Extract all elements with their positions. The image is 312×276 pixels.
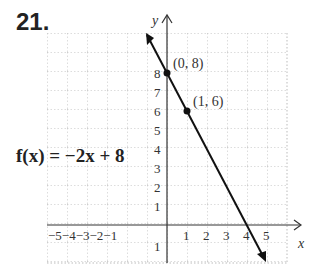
- svg-text:5: 5: [154, 123, 161, 138]
- point-1-6: [184, 108, 191, 115]
- svg-text:3: 3: [154, 161, 161, 176]
- function-equation: f(x) = −2x + 8: [16, 145, 124, 167]
- svg-text:6: 6: [154, 104, 161, 119]
- svg-text:2: 2: [154, 180, 161, 195]
- svg-text:3: 3: [223, 228, 230, 243]
- y-axis-label: y: [150, 13, 159, 28]
- svg-text:5: 5: [263, 228, 270, 243]
- svg-text:2: 2: [203, 228, 210, 243]
- point-0-8: [164, 70, 171, 77]
- svg-text:(1, 6): (1, 6): [193, 94, 224, 110]
- svg-text:−5−4−3−2−1: −5−4−3−2−1: [48, 228, 117, 243]
- svg-text:4: 4: [154, 142, 161, 157]
- svg-text:1: 1: [183, 228, 190, 243]
- coordinate-graph: y x (0, 8) (1, 6) 8 7 6 5 4 3 2 1 1 −5−4…: [0, 0, 312, 276]
- svg-text:(0, 8): (0, 8): [173, 56, 204, 72]
- svg-text:4: 4: [243, 228, 250, 243]
- svg-text:7: 7: [154, 85, 161, 100]
- x-axis-label: x: [297, 236, 305, 251]
- svg-text:8: 8: [154, 66, 161, 81]
- svg-text:1: 1: [154, 239, 161, 254]
- svg-text:1: 1: [154, 199, 161, 214]
